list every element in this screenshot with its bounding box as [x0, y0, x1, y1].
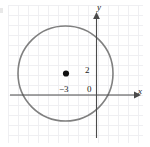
y-axis-label: y [97, 3, 101, 12]
graph-figure: x y 0 2 −3 [0, 0, 150, 147]
origin-label: 0 [87, 85, 92, 94]
x-axis-label: x [138, 87, 142, 96]
center-point-marker [63, 70, 69, 76]
y-value-label-2: 2 [85, 66, 90, 75]
x-value-label-neg3: −3 [59, 85, 69, 94]
y-axis-arrowhead [93, 12, 100, 19]
